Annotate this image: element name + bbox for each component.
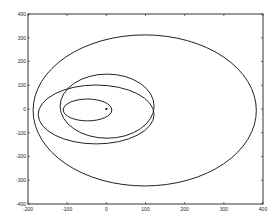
x-tick-label: 300 xyxy=(220,206,229,212)
y-tick-label: 100 xyxy=(18,82,27,88)
y-tick-label: 200 xyxy=(18,58,27,64)
y-tick-label: -100 xyxy=(16,130,26,136)
x-tick-label: 0 xyxy=(105,206,108,212)
markers xyxy=(105,108,107,110)
x-tick-label: 400 xyxy=(259,206,268,212)
center-star-marker xyxy=(105,108,107,110)
orbit-chart: -200-1000100200300400-400-300-200-100010… xyxy=(0,0,278,223)
y-tick-label: -400 xyxy=(16,201,26,207)
x-tick-label: 100 xyxy=(141,206,150,212)
y-tick-label: -200 xyxy=(16,153,26,159)
y-tick-label: 300 xyxy=(18,35,27,41)
x-tick-label: -200 xyxy=(23,206,33,212)
y-tick-label: -300 xyxy=(16,177,26,183)
y-tick-label: 400 xyxy=(18,11,27,17)
x-tick-label: -100 xyxy=(62,206,72,212)
x-tick-label: 200 xyxy=(180,206,189,212)
y-tick-label: 0 xyxy=(23,106,26,112)
